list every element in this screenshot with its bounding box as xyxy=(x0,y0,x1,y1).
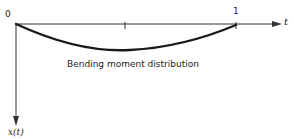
curve-caption: Bending moment distribution xyxy=(67,59,199,69)
bending-moment-curve xyxy=(16,24,236,50)
diagram-graphics xyxy=(0,0,294,139)
x-axis-arrow-icon xyxy=(13,116,19,126)
end-label: 1 xyxy=(233,6,239,16)
t-axis-arrow-icon xyxy=(272,21,282,27)
bending-moment-diagram: 0 1 t Bending moment distribution x(t) xyxy=(0,0,294,139)
t-axis-label: t xyxy=(284,16,288,27)
x-axis-label: x(t) xyxy=(8,127,24,137)
origin-label: 0 xyxy=(5,9,11,19)
